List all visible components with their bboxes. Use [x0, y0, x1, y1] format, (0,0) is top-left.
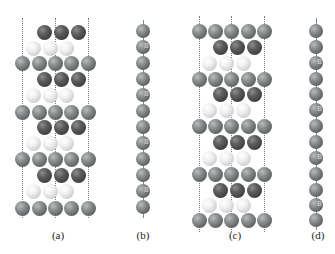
panel-label-b: (b) — [137, 229, 150, 241]
grey-atom — [15, 152, 30, 167]
chain-atom: B — [309, 151, 323, 165]
white-atom — [219, 151, 234, 166]
chain-atom — [136, 56, 150, 70]
white-atom — [43, 41, 58, 56]
white-atom — [219, 56, 234, 71]
chain-atom — [309, 40, 323, 54]
grey-atom — [241, 24, 256, 39]
dark-atom — [54, 25, 69, 40]
grey-atom — [48, 105, 63, 120]
grey-atom — [224, 119, 239, 134]
dark-atom — [71, 72, 86, 87]
chain-atom — [136, 152, 150, 166]
grey-atom — [224, 24, 239, 39]
white-atom — [202, 151, 217, 166]
chain-atom — [136, 168, 150, 182]
white-atom — [236, 198, 251, 213]
panel-label-d: (d) — [312, 229, 325, 241]
chain-atom — [309, 167, 323, 181]
white-atom — [202, 103, 217, 118]
grey-atom — [48, 56, 63, 71]
white-atom — [59, 41, 74, 56]
grey-atom — [81, 105, 96, 120]
white-atom — [59, 184, 74, 199]
chain-atom: B — [309, 198, 323, 212]
dark-atom — [71, 120, 86, 135]
chain-atom — [309, 24, 323, 38]
grey-atom — [208, 213, 223, 228]
white-atom — [26, 136, 41, 151]
dark-atom — [213, 40, 228, 55]
grey-atom — [208, 72, 223, 87]
chain-atom — [309, 87, 323, 101]
grey-atom — [48, 201, 63, 216]
grey-atom — [81, 56, 96, 71]
white-atom — [59, 88, 74, 103]
atom-mark: B — [144, 42, 149, 49]
atom-mark: B — [317, 200, 322, 207]
white-atom — [26, 41, 41, 56]
dark-atom — [54, 120, 69, 135]
grey-atom — [32, 105, 47, 120]
white-atom — [43, 136, 58, 151]
dark-atom — [54, 168, 69, 183]
dark-atom — [71, 25, 86, 40]
dark-atom — [37, 120, 52, 135]
grey-atom — [224, 72, 239, 87]
chain-atom: B — [136, 136, 150, 150]
grey-atom — [208, 24, 223, 39]
grey-atom — [64, 56, 79, 71]
dark-atom — [230, 87, 245, 102]
grey-atom — [241, 119, 256, 134]
dark-atom — [213, 135, 228, 150]
chain-atom — [136, 200, 150, 214]
chain-atom: B — [309, 56, 323, 70]
panel-label-a: (a) — [52, 229, 64, 241]
white-atom — [236, 56, 251, 71]
white-atom — [219, 198, 234, 213]
grey-atom — [257, 24, 272, 39]
grey-atom — [257, 167, 272, 182]
white-atom — [219, 103, 234, 118]
grey-atom — [241, 213, 256, 228]
chain-atom — [309, 119, 323, 133]
dark-atom — [37, 25, 52, 40]
panel-label-c: (c) — [229, 229, 241, 241]
chain-atom: B — [136, 88, 150, 102]
grey-atom — [192, 119, 207, 134]
dark-atom — [54, 72, 69, 87]
chain-atom — [309, 213, 323, 227]
dark-atom — [37, 72, 52, 87]
grey-atom — [32, 152, 47, 167]
grey-atom — [241, 167, 256, 182]
grey-atom — [241, 72, 256, 87]
grey-atom — [192, 213, 207, 228]
dark-atom — [213, 183, 228, 198]
atom-mark: B — [317, 58, 322, 65]
grey-atom — [64, 105, 79, 120]
grey-atom — [257, 72, 272, 87]
white-atom — [236, 151, 251, 166]
grey-atom — [224, 213, 239, 228]
grey-atom — [208, 167, 223, 182]
dark-atom — [213, 87, 228, 102]
grey-atom — [257, 119, 272, 134]
dark-atom — [37, 168, 52, 183]
grey-atom — [224, 167, 239, 182]
chain-atom — [136, 72, 150, 86]
white-atom — [26, 184, 41, 199]
atom-mark: B — [317, 153, 322, 160]
grey-atom — [257, 213, 272, 228]
white-atom — [43, 88, 58, 103]
grey-atom — [15, 105, 30, 120]
white-atom — [236, 103, 251, 118]
dark-atom — [247, 135, 262, 150]
grey-atom — [32, 201, 47, 216]
grey-atom — [81, 152, 96, 167]
grey-atom — [48, 152, 63, 167]
chain-atom: B — [136, 184, 150, 198]
chain-atom: B — [136, 40, 150, 54]
grey-atom — [15, 56, 30, 71]
grey-atom — [81, 201, 96, 216]
chain-atom — [136, 24, 150, 38]
